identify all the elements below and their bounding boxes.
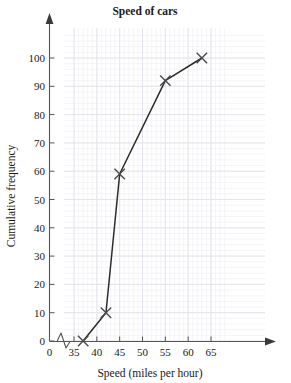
y-tick-label: 60 [34, 165, 46, 177]
y-tick-label: 70 [34, 137, 46, 149]
chart-title: Speed of cars [112, 5, 178, 18]
y-axis-title: Cumulative frequency [5, 145, 18, 248]
x-tick-label: 45 [114, 346, 126, 358]
y-tick-label: 20 [34, 278, 46, 290]
x-axis-origin-label: 0 [47, 346, 53, 358]
x-tick-label: 65 [206, 346, 218, 358]
x-tick-label: 50 [137, 346, 149, 358]
y-tick-label: 90 [34, 80, 46, 92]
cumulative-frequency-chart: 35404550556065 0102030405060708090100 Sp… [0, 0, 291, 383]
y-tick-label: 10 [34, 307, 46, 319]
y-tick-label: 50 [34, 194, 46, 206]
x-tick-label: 35 [69, 346, 81, 358]
x-tick-label: 55 [160, 346, 172, 358]
x-tick-label: 60 [183, 346, 195, 358]
y-tick-label: 30 [34, 250, 46, 262]
y-tick-label: 0 [40, 335, 46, 347]
x-axis-title: Speed (miles per hour) [97, 367, 202, 380]
y-tick-label: 40 [34, 222, 46, 234]
y-tick-label: 80 [34, 109, 46, 121]
chart-container: 35404550556065 0102030405060708090100 Sp… [0, 0, 291, 383]
y-tick-label: 100 [29, 52, 46, 64]
x-tick-label: 40 [91, 346, 103, 358]
